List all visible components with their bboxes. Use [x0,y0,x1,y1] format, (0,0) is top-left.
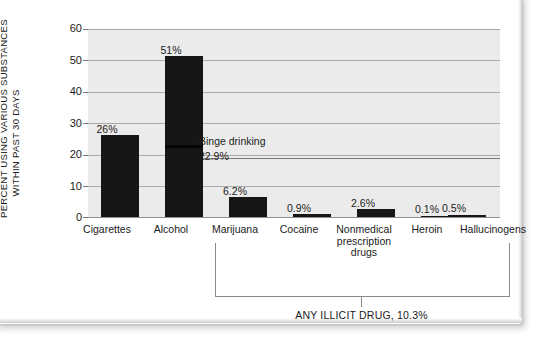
plot-area [88,29,500,218]
y-axis-title-line-2: WITHIN PAST 30 DAYS [10,68,22,218]
gridline-20 [88,155,500,156]
category-label-line: Hallucinogens [455,224,531,236]
category-label-alcohol: Alcohol [140,224,202,236]
bar-value-cocaine: 0.9% [274,203,324,214]
binge-drinking-value: 22.9% [199,150,229,162]
bar-nonmedical-prescription-drugs[interactable] [357,209,395,217]
category-label-hallucinogens: Hallucinogens [455,224,531,236]
category-label-heroin: Heroin [396,224,458,236]
bar-value-cigarettes: 26% [82,124,132,135]
y-tick-label-20: 20 [48,149,82,160]
y-tick-label-60: 60 [48,23,82,34]
category-label-line: Nonmedical [330,224,398,236]
y-tick-label-30: 30 [48,118,82,129]
gridline-50 [88,60,500,61]
category-label-line: Marijuana [204,224,266,236]
page-right-edge [518,0,522,324]
binge-drinking-annotation: Binge drinking [199,135,266,147]
category-label-cocaine: Cocaine [268,224,330,236]
gridline-60 [88,29,500,30]
category-label-line: Cocaine [268,224,330,236]
bar-hallucinogens[interactable] [448,215,486,217]
y-axis-title: PERCENT USING VARIOUS SUBSTANCES WITHIN … [0,68,22,218]
binge-drinking-marker [165,145,203,148]
y-tick-label-10: 10 [48,181,82,192]
bar-cigarettes[interactable] [101,135,139,217]
category-label-line: Alcohol [140,224,202,236]
y-tick-label-40: 40 [48,86,82,97]
bar-value-alcohol: 51% [146,45,196,56]
bar-value-hallucinogens: 0.5% [429,203,479,214]
bar-cocaine[interactable] [293,214,331,217]
category-label-line: Cigarettes [76,224,138,236]
y-axis-title-line-1: PERCENT USING VARIOUS SUBSTANCES [0,68,10,218]
bar-value-marijuana: 6.2% [210,186,260,197]
y-tick-label-0: 0 [48,212,82,223]
gridline-40 [88,92,500,93]
any-illicit-drug-bracket-stem [361,296,362,307]
gridline-10 [88,186,500,187]
any-illicit-drug-bracket [215,243,510,297]
x-axis-baseline [88,217,500,218]
category-label-marijuana: Marijuana [204,224,266,236]
gridline-30 [88,123,500,124]
chart-page: PERCENT USING VARIOUS SUBSTANCES WITHIN … [0,0,550,348]
bar-alcohol[interactable] [165,56,203,217]
bar-marijuana[interactable] [229,197,267,217]
binge-drinking-label: Binge drinking [199,135,266,147]
bar-value-nonmedical-prescription-drugs: 2.6% [338,198,388,209]
y-tick-label-50: 50 [48,55,82,66]
binge-drinking-leader-line [203,158,500,159]
category-label-line: Heroin [396,224,458,236]
category-label-cigarettes: Cigarettes [76,224,138,236]
any-illicit-drug-label: ANY ILLICIT DRUG, 10.3% [215,309,508,321]
